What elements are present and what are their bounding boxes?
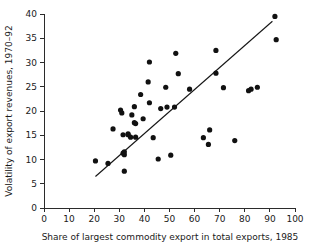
scatter-plot-figure: 0510152025303540 0102030405060708090100 … bbox=[0, 0, 310, 248]
data-point bbox=[133, 121, 138, 126]
chart-canvas: 0510152025303540 0102030405060708090100 … bbox=[0, 0, 310, 248]
data-points-group bbox=[93, 14, 279, 174]
data-point bbox=[201, 135, 206, 140]
data-point bbox=[176, 71, 181, 76]
y-tick-label: 35 bbox=[26, 33, 37, 43]
x-tick-label: 90 bbox=[264, 214, 276, 224]
data-point bbox=[206, 142, 211, 147]
data-point bbox=[93, 158, 98, 163]
x-tick-label: 100 bbox=[286, 214, 303, 224]
data-point bbox=[207, 127, 212, 132]
data-point bbox=[110, 126, 115, 131]
y-tick-label: 15 bbox=[26, 130, 37, 140]
data-point bbox=[129, 112, 134, 117]
data-point bbox=[248, 87, 253, 92]
data-point bbox=[151, 135, 156, 140]
data-point bbox=[274, 37, 279, 42]
data-point bbox=[213, 71, 218, 76]
x-tick-label: 60 bbox=[189, 214, 201, 224]
data-point bbox=[122, 169, 127, 174]
data-point bbox=[163, 85, 168, 90]
data-point bbox=[158, 106, 163, 111]
y-tick-label: 25 bbox=[26, 82, 37, 92]
y-tick-label: 5 bbox=[31, 179, 37, 189]
data-point bbox=[128, 135, 133, 140]
data-point bbox=[141, 116, 146, 121]
x-tick-label: 20 bbox=[88, 214, 100, 224]
data-point bbox=[272, 14, 277, 19]
x-tick-label: 30 bbox=[114, 214, 126, 224]
data-point bbox=[147, 100, 152, 105]
x-axis-ticks: 0102030405060708090100 bbox=[41, 208, 304, 224]
x-tick-label: 10 bbox=[63, 214, 75, 224]
data-point bbox=[132, 104, 137, 109]
data-point bbox=[187, 87, 192, 92]
data-point bbox=[255, 85, 260, 90]
y-tick-label: 20 bbox=[26, 106, 38, 116]
data-point bbox=[119, 110, 124, 115]
x-tick-label: 70 bbox=[214, 214, 226, 224]
y-tick-label: 30 bbox=[26, 58, 38, 68]
data-point bbox=[221, 85, 226, 90]
data-point bbox=[120, 132, 125, 137]
data-point bbox=[105, 161, 110, 166]
y-tick-label: 10 bbox=[26, 155, 38, 165]
data-point bbox=[138, 92, 143, 97]
data-point bbox=[232, 138, 237, 143]
y-axis-ticks: 0510152025303540 bbox=[26, 9, 44, 213]
data-point bbox=[173, 51, 178, 56]
x-tick-label: 40 bbox=[139, 214, 151, 224]
data-point bbox=[122, 149, 127, 154]
y-tick-label: 0 bbox=[31, 203, 37, 213]
x-axis-title: Share of largest commodity export in tot… bbox=[42, 232, 299, 242]
data-point bbox=[168, 153, 173, 158]
data-point bbox=[133, 135, 138, 140]
data-point bbox=[213, 48, 218, 53]
x-tick-label: 0 bbox=[41, 214, 47, 224]
x-tick-label: 50 bbox=[164, 214, 176, 224]
y-axis-title: Volatility of export revenues, 1970–92 bbox=[4, 25, 14, 196]
data-point bbox=[146, 79, 151, 84]
data-point bbox=[172, 105, 177, 110]
data-point bbox=[164, 105, 169, 110]
data-point bbox=[156, 156, 161, 161]
x-tick-label: 80 bbox=[239, 214, 251, 224]
y-tick-label: 40 bbox=[26, 9, 38, 19]
data-point bbox=[147, 59, 152, 64]
